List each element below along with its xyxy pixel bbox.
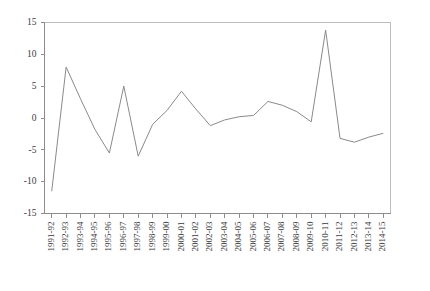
x-tick-label: 2004-05 [233,221,243,251]
x-tick-label: 2011-12 [334,222,344,252]
y-tick-label: 10 [27,49,37,59]
x-tick-label: 1995-96 [103,221,113,251]
y-tick-group: 151050-5-10-15 [24,17,45,218]
x-tick-label: 1993-94 [75,221,85,251]
x-tick-label: 1998-99 [147,221,157,251]
y-tick-label: -5 [29,145,37,155]
x-tick-label: 1996-97 [118,221,128,251]
x-tick-label: 2003-04 [219,221,229,251]
data-line-series-1 [52,30,384,191]
x-tick-label: 1991-92 [46,222,56,252]
x-tick-label: 2012-13 [349,221,359,251]
x-tick-label: 2001-02 [190,222,200,252]
y-tick-label: -15 [24,208,37,218]
x-tick-label: 2006-07 [262,221,272,251]
x-tick-label: 2005-06 [248,221,258,251]
y-tick-label: -10 [24,176,37,186]
x-tick-label: 2009-10 [305,221,315,251]
x-tick-label: 1994-95 [89,221,99,251]
y-axis: 151050-5-10-15 [24,17,45,218]
x-tick-label: 1997-98 [132,221,142,251]
y-tick-label: 5 [32,81,37,91]
x-tick-label: 2013-14 [363,221,373,251]
x-tick-group: 1991-921992-931993-941994-951995-961996-… [46,214,388,252]
x-tick-label: 2008-09 [291,221,301,251]
line-chart: 151050-5-10-15 1991-921992-931993-941994… [0,0,430,291]
y-tick-label: 15 [27,17,37,27]
plot-frame [45,23,391,214]
chart-canvas: 151050-5-10-15 1991-921992-931993-941994… [0,0,430,291]
x-tick-label: 1999-00 [161,221,171,251]
data-series-group [52,30,384,191]
y-tick-label: 0 [32,113,37,123]
x-tick-label: 2000-01 [176,222,186,252]
x-axis: 1991-921992-931993-941994-951995-961996-… [45,214,391,252]
x-tick-label: 2010-11 [320,222,330,252]
x-tick-label: 2007-08 [276,221,286,251]
x-tick-label: 1992-93 [60,221,70,251]
x-tick-label: 2002-03 [204,221,214,251]
x-tick-label: 2014-15 [377,221,387,251]
